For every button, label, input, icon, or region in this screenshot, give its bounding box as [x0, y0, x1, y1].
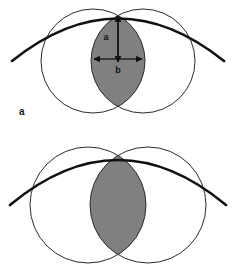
- panel-label-a: a: [19, 107, 25, 117]
- panel-b: b: [0, 137, 236, 274]
- panel-a: a b a: [0, 0, 236, 137]
- figure-root: a b a b: [0, 0, 236, 274]
- panel-a-drawing: a b: [0, 0, 236, 137]
- panel-b-drawing: [0, 137, 236, 274]
- width-dimension-label-a: b: [115, 65, 121, 75]
